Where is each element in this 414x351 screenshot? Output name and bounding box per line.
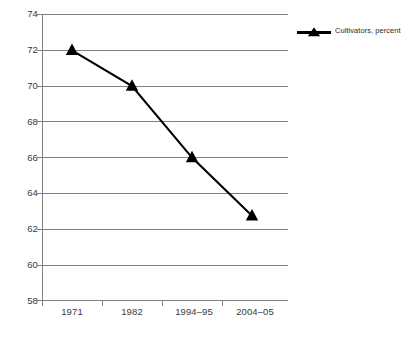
y-tick-label-66: 66 (14, 153, 38, 163)
chart-legend: Cultivators, percent (296, 24, 401, 36)
y-tick-label-64: 64 (14, 188, 38, 198)
x-tick-label-1982: 1982 (121, 306, 143, 318)
y-tick-label-70: 70 (14, 81, 38, 91)
x-tick-label-2004-05: 2004–05 (236, 306, 274, 318)
data-point-1971 (66, 44, 78, 56)
x-axis-tick-labels: 1971 1982 1994–95 2004–05 (0, 306, 300, 326)
cropped-caption-text (14, 341, 394, 351)
cropped-caption (14, 341, 394, 351)
series-line-cultivators (72, 50, 252, 216)
data-point-1982 (126, 79, 138, 91)
y-tick-label-58: 58 (14, 296, 38, 306)
y-tick-label-60: 60 (14, 260, 38, 270)
y-axis-tick-labels: 74 72 70 68 66 64 62 60 58 (12, 0, 38, 320)
gridlines (42, 15, 288, 301)
y-tick-label-62: 62 (14, 224, 38, 234)
y-tick-label-74: 74 (14, 9, 38, 19)
plot-area: 74 72 70 68 66 64 62 60 58 1971 1982 199… (0, 0, 300, 320)
line-chart-canvas (0, 0, 300, 320)
x-tick-label-1994-95: 1994–95 (175, 306, 213, 318)
y-tick-label-72: 72 (14, 45, 38, 55)
legend-triangle-line-marker-icon (296, 24, 332, 36)
chart-figure: 74 72 70 68 66 64 62 60 58 1971 1982 199… (0, 0, 414, 351)
legend-item-label-cultivators: Cultivators, percent (332, 26, 401, 35)
y-tick-label-68: 68 (14, 117, 38, 127)
x-tick-label-1971: 1971 (61, 306, 83, 318)
